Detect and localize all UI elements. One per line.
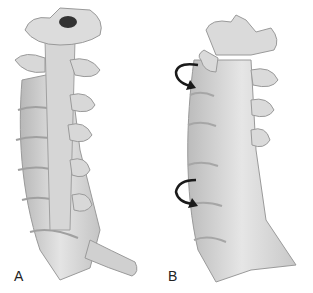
spinal-canal-opening bbox=[59, 16, 77, 28]
panel-label-b: B bbox=[168, 268, 177, 284]
spine-panel-b: B bbox=[156, 0, 313, 293]
spine-panel-a: A bbox=[0, 0, 156, 293]
spine-illustration-a bbox=[0, 0, 156, 293]
panel-label-a: A bbox=[14, 268, 23, 284]
spine-illustration-b bbox=[156, 0, 313, 293]
